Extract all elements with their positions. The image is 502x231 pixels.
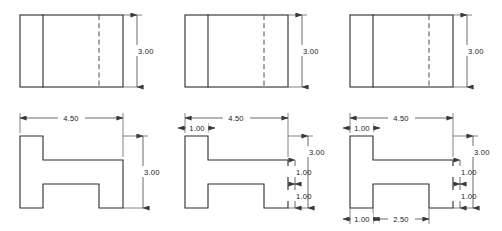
front-view-2-dim-flange-label: 1.00 — [189, 124, 205, 133]
top-view-1-outline — [20, 15, 123, 87]
front-view-3-outline — [350, 136, 453, 208]
front-view-1: 4.50 3.00 — [20, 112, 160, 208]
front-view-3-dim-height-label: 3.00 — [474, 148, 490, 157]
front-view-3-dim-step-up-label: 1.00 — [461, 168, 477, 177]
front-view-2-dim-step-low-label: 1.00 — [296, 192, 312, 201]
front-view-3-dim-bot-leg-label: 1.00 — [354, 215, 370, 224]
front-view-2-dim-width-label: 4.50 — [228, 114, 244, 123]
top-view-3-dim-height-label: 3.00 — [468, 47, 484, 56]
view-column-3: 3.00 4.50 1.00 3.00 — [343, 15, 490, 224]
drawing-sheet: 3.00 4.50 3.00 — [0, 0, 502, 231]
front-view-2-dim-height-label: 3.00 — [309, 148, 325, 157]
top-view-3-outline — [350, 15, 453, 87]
front-view-3-dim-bot-span-label: 2.50 — [393, 215, 409, 224]
front-view-1-dim-height-label: 3.00 — [144, 168, 160, 177]
view-column-1: 3.00 4.50 3.00 — [20, 15, 160, 208]
top-view-2-outline — [185, 15, 288, 87]
top-view-3: 3.00 — [350, 15, 484, 87]
front-view-3: 4.50 1.00 3.00 1.00 1.00 — [343, 112, 490, 224]
top-view-1-dim-height-label: 3.00 — [138, 47, 154, 56]
view-column-2: 3.00 4.50 1.00 3.00 — [178, 15, 325, 208]
front-view-3-dim-step-low-label: 1.00 — [461, 192, 477, 201]
drawing-canvas: 3.00 4.50 3.00 — [0, 0, 502, 231]
front-view-2-dim-step-up-label: 1.00 — [296, 168, 312, 177]
front-view-1-outline — [20, 136, 123, 208]
top-view-2: 3.00 — [185, 15, 319, 87]
top-view-2-dim-height-label: 3.00 — [303, 47, 319, 56]
front-view-3-dim-flange-label: 1.00 — [354, 124, 370, 133]
front-view-2: 4.50 1.00 3.00 1.00 1.00 — [178, 112, 325, 208]
front-view-2-outline — [185, 136, 288, 208]
front-view-3-dim-width-label: 4.50 — [393, 114, 409, 123]
top-view-1: 3.00 — [20, 15, 154, 87]
front-view-1-dim-width-label: 4.50 — [63, 114, 79, 123]
